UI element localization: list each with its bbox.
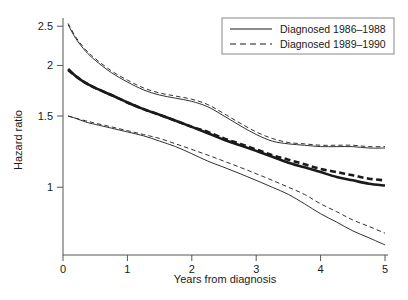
x-tick-label: 4 [318,263,324,275]
x-tick-label: 1 [124,263,130,275]
legend-label-1986-1988: Diagnosed 1986–1988 [280,23,386,35]
x-axis-title: Years from diagnosis [174,273,277,285]
y-tick-label: 1.5 [38,110,53,122]
x-tick-label: 5 [382,263,388,275]
y-axis-title: Hazard ratio [12,110,24,170]
x-tick-label: 0 [60,263,66,275]
legend: Diagnosed 1986–1988 Diagnosed 1989–1990 [222,18,394,54]
y-tick-label: 2.5 [38,20,53,32]
legend-label-1989-1990: Diagnosed 1989–1990 [280,38,386,50]
y-tick-label: 1 [47,181,53,193]
hazard-ratio-line-chart: 11.522.5 012345 Years from diagnosis Haz… [0,0,408,300]
y-tick-label: 2 [47,59,53,71]
chart-canvas: 11.522.5 012345 Years from diagnosis Haz… [0,0,408,300]
